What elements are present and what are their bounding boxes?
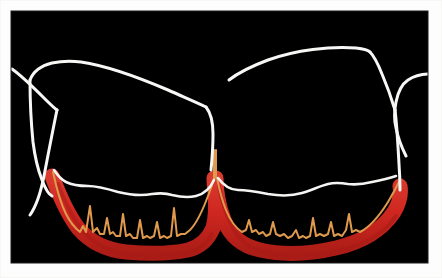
figure-frame: Traced line illustration on black backgr… bbox=[0, 0, 442, 278]
dental-tracing-illustration bbox=[0, 0, 442, 278]
